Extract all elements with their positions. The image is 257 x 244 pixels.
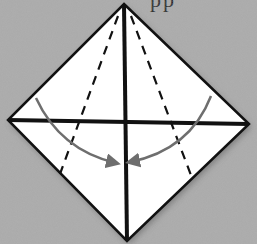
- origami-diagram: [0, 0, 257, 244]
